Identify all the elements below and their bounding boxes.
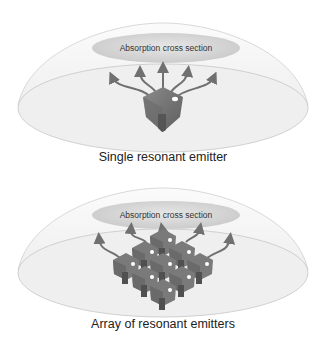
array-emitter-panel: Absorption cross section Array of resona… [0, 170, 326, 339]
absorption-label: Absorption cross section [120, 210, 213, 220]
absorption-label: Absorption cross section [120, 43, 213, 53]
caption-single: Single resonant emitter [0, 150, 326, 164]
single-emitter-panel: Absorption cross section Single resonant… [0, 0, 326, 170]
dome-diagram-array: Absorption cross section [0, 170, 326, 330]
dome-diagram-single: Absorption cross section [0, 0, 326, 160]
caption-array: Array of resonant emitters [0, 317, 326, 331]
